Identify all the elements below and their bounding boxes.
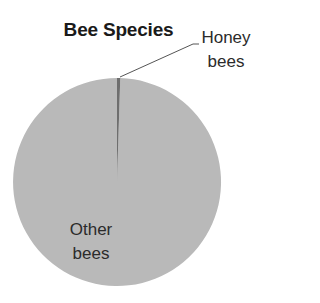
label-honey-line1: Honey — [194, 26, 258, 50]
label-honey-line2: bees — [194, 50, 258, 74]
label-other-line2: bees — [60, 242, 122, 266]
label-other-line1: Other — [60, 218, 122, 242]
label-honey-bees: Honey bees — [194, 26, 258, 74]
label-other-bees: Other bees — [60, 218, 122, 266]
honey-bees-leader-line — [120, 44, 199, 77]
